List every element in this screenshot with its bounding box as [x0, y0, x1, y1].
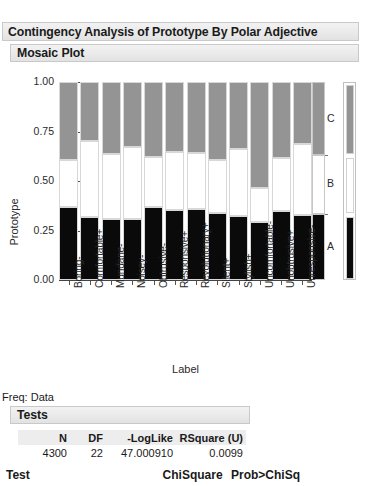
x-axis-tick-mark — [154, 281, 155, 285]
mosaic-segment-c[interactable] — [102, 82, 121, 154]
x-axis-tick-mark — [111, 281, 112, 285]
x-axis-tick-label: Stylish+ — [243, 254, 254, 288]
mosaic-segment-c[interactable] — [208, 82, 227, 160]
mosaic-segment-c[interactable] — [229, 82, 248, 149]
mosaic-segment-b[interactable] — [59, 160, 78, 207]
mosaic-bar-column[interactable] — [229, 82, 248, 280]
y-axis-tick-label: 0.00 — [24, 273, 54, 285]
test-col-header-prob: Prob>ChiSq — [223, 468, 302, 482]
mosaic-segment-b[interactable] — [272, 158, 291, 210]
mosaic-segment-b[interactable] — [144, 157, 163, 207]
x-axis-tick-label: Boring- — [73, 257, 84, 288]
mosaic-segment-b[interactable] — [293, 144, 312, 214]
y-axis-title: Prototype — [8, 182, 20, 262]
tests-table: N DF -LogLike RSquare (U) 4300 22 47.000… — [18, 430, 246, 461]
legend-label-a: A — [327, 240, 334, 252]
mosaic-segment-b[interactable] — [102, 154, 121, 218]
tests-value-rsquare: 0.0099 — [176, 447, 246, 459]
mosaic-segment-c[interactable] — [187, 82, 206, 153]
y-axis-tick-label: 0.25 — [24, 224, 54, 236]
mosaic-segment-c[interactable] — [250, 82, 269, 188]
tests-table-header-row: N DF -LogLike RSquare (U) — [18, 430, 246, 445]
mosaic-segment-c[interactable] — [80, 82, 99, 141]
strip-segment-a — [346, 217, 354, 279]
strip-segment-b — [346, 158, 354, 212]
mosaic-segment-b[interactable] — [123, 147, 142, 218]
x-axis-tick-label: Unresponsive- — [306, 225, 317, 288]
y-axis-tick-label: 0.50 — [24, 174, 54, 186]
tests-value-loglike: 47.000910 — [106, 447, 176, 459]
x-axis-tick-label: Unobtrusive+ — [285, 230, 296, 288]
x-axis-tick-label: Mundane- — [115, 244, 126, 288]
mosaic-segment-b[interactable] — [165, 152, 184, 209]
tests-col-header-loglike: -LogLike — [106, 432, 176, 444]
marginal-distribution-strip — [343, 82, 356, 280]
tests-value-n: 4300 — [18, 447, 70, 459]
x-axis-tick-label: Revolutionary+ — [200, 223, 211, 288]
x-axis-tick-mark — [90, 281, 91, 285]
x-axis-tick-mark — [260, 281, 261, 285]
x-axis-tick-mark — [217, 281, 218, 285]
mosaic-segment-c[interactable] — [272, 82, 291, 158]
mosaic-plot-section-label: Mosaic Plot — [17, 46, 84, 60]
x-axis-tick-label: Comfortable+ — [94, 229, 105, 288]
mosaic-segment-b[interactable] — [187, 153, 206, 208]
tests-section-label: Tests — [17, 408, 48, 422]
mosaic-plot-area: Prototype 1.000.750.500.250.00 Label CBA… — [0, 66, 370, 386]
x-axis-tick-mark — [302, 281, 303, 285]
mosaic-segment-b[interactable] — [80, 141, 99, 216]
mosaic-segment-b[interactable] — [229, 149, 248, 215]
test-col-header-test: Test — [2, 468, 149, 482]
x-axis-tick-label: Noisey- — [136, 255, 147, 288]
mosaic-segment-c[interactable] — [123, 82, 142, 147]
x-axis-tick-mark — [281, 281, 282, 285]
test-detail-header-row: Test ChiSquare Prob>ChiSq — [2, 467, 302, 483]
strip-segment-c — [346, 85, 354, 154]
table-row: 4300 22 47.000910 0.0099 — [18, 445, 246, 461]
y-axis-tick-label: 1.00 — [24, 75, 54, 87]
test-col-header-chisquare: ChiSquare — [149, 468, 223, 482]
y-axis-tick-labels: 1.000.750.500.250.00 — [22, 66, 54, 286]
mosaic-segment-c[interactable] — [293, 82, 312, 144]
window-title-text: Contingency Analysis of Prototype By Pol… — [8, 25, 318, 39]
freq-line: Freq: Data — [2, 391, 54, 403]
window-title-bar: Contingency Analysis of Prototype By Pol… — [2, 22, 359, 41]
legend-label-c: C — [327, 112, 335, 124]
y-axis-tick-label: 0.75 — [24, 125, 54, 137]
legend-swatch-b — [312, 155, 325, 213]
mosaic-segment-c[interactable] — [144, 82, 163, 157]
x-axis-tick-label: Uncomfortable- — [264, 221, 275, 288]
x-axis-tick-label: Silent+ — [221, 258, 232, 288]
x-axis-tick-mark — [196, 281, 197, 285]
x-axis-tick-mark — [69, 281, 70, 285]
mosaic-segment-b[interactable] — [208, 160, 227, 212]
mosaic-bar-column[interactable] — [59, 82, 78, 280]
mosaic-segment-c[interactable] — [165, 82, 184, 152]
tests-value-df: 22 — [70, 447, 106, 459]
x-axis-title: Label — [59, 363, 312, 375]
mosaic-plot-section-header[interactable]: Mosaic Plot — [10, 44, 359, 62]
x-axis-tick-mark — [132, 281, 133, 285]
x-axis-tick-mark — [239, 281, 240, 285]
tests-col-header-n: N — [18, 432, 70, 444]
tests-col-header-df: DF — [70, 432, 106, 444]
mosaic-segment-c[interactable] — [59, 82, 78, 160]
legend-swatch-c — [312, 82, 325, 155]
tests-col-header-rsquare: RSquare (U) — [176, 432, 246, 444]
mosaic-segment-b[interactable] — [250, 188, 269, 222]
x-axis-tick-mark — [175, 281, 176, 285]
tests-section-header[interactable]: Tests — [10, 406, 250, 424]
x-axis-tick-label: Responsive+ — [179, 231, 190, 288]
legend-label-b: B — [327, 177, 334, 189]
x-axis-tick-label: Obtrusive- — [158, 243, 169, 288]
